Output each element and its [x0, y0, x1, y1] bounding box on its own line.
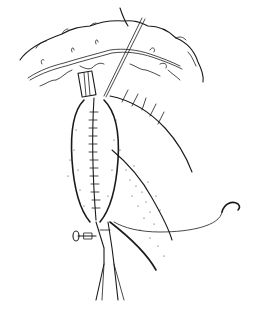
omentum-bowel-arc	[20, 21, 203, 82]
surgical-illustration	[0, 0, 253, 322]
clamp-top	[78, 71, 96, 97]
sutured-segment	[67, 98, 120, 222]
mesenteric-vessels	[28, 40, 182, 86]
illustration-svg	[0, 0, 253, 322]
curved-needle	[114, 202, 240, 232]
forceps-bottom	[73, 222, 156, 300]
